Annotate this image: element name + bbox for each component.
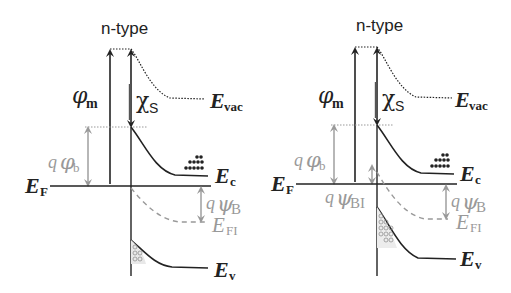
band-diagram-canvas: n-type [0,0,511,293]
label-q-phi-b: q φ b [48,150,80,175]
label-e-v: E v [459,246,482,272]
panel-title: n-type [356,16,403,35]
svg-text:vac: vac [469,98,488,113]
svg-text:q: q [206,193,215,213]
svg-text:m: m [332,96,344,111]
svg-text:v: v [475,257,482,272]
svg-text:F: F [286,182,294,197]
panel-title: n-type [101,19,148,38]
intrinsic-level-curve [377,172,448,219]
svg-text:E: E [214,163,230,188]
svg-text:FI: FI [470,220,482,235]
svg-text:E: E [455,210,469,234]
electron-dots [430,153,450,168]
label-e-vac: E vac [454,87,488,113]
svg-text:b: b [73,160,80,175]
svg-text:E: E [454,87,470,112]
svg-text:v: v [229,268,236,283]
panel-left: n-type [24,19,243,283]
svg-text:F: F [40,184,48,199]
label-phi-m: φ m [318,83,344,111]
svg-text:E: E [459,246,475,271]
electron-dots [184,155,204,170]
label-e-c: E c [214,163,236,189]
label-e-f: E F [24,173,48,199]
svg-text:E: E [24,173,40,198]
svg-text:BI: BI [350,195,365,211]
svg-text:b: b [319,158,326,173]
label-e-vac: E vac [209,88,243,114]
svg-text:FI: FI [226,223,238,238]
label-q-psi-bi: q ψ BI [325,186,365,211]
label-e-c: E c [459,161,481,187]
intrinsic-level-curve [131,188,205,222]
svg-text:S: S [149,100,158,116]
svg-text:χ: χ [136,88,149,113]
svg-text:q: q [48,152,57,172]
label-chi-s: χ S [136,88,158,116]
svg-text:q: q [294,150,303,170]
svg-text:E: E [213,257,229,282]
label-phi-m: φ m [72,83,98,111]
svg-text:vac: vac [224,99,243,114]
svg-text:E: E [209,88,225,113]
label-chi-s: χ S [382,86,404,114]
svg-text:q: q [451,191,460,211]
svg-text:B: B [476,199,486,215]
svg-text:E: E [459,161,475,186]
svg-text:χ: χ [382,86,395,111]
svg-text:c: c [475,172,481,187]
label-q-phi-b: q φ b [294,148,326,173]
svg-text:B: B [231,201,241,217]
svg-text:q: q [325,187,334,207]
svg-text:S: S [395,98,404,114]
svg-text:E: E [211,213,225,237]
label-e-v: E v [213,257,236,283]
panel-right: n-type φ m [270,16,488,276]
svg-text:c: c [230,174,236,189]
label-e-f: E F [270,171,294,197]
svg-text:m: m [86,96,98,111]
svg-text:E: E [270,171,286,196]
